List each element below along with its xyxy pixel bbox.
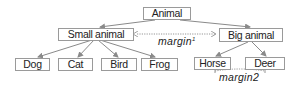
edge-animal-small (100, 20, 155, 27)
node-animal: Animal (143, 7, 191, 20)
edge-small-dog (38, 40, 92, 57)
margin1-label-sup: 1 (192, 36, 196, 42)
node-deer: Deer (245, 57, 285, 70)
node-horse: Horse (194, 57, 231, 70)
node-dog: Dog (15, 58, 50, 71)
node-cat: Cat (58, 58, 93, 71)
node-small-animal: Small animal (58, 28, 134, 41)
node-big-animal: Big animal (219, 28, 283, 42)
margin1-label: margin1 (158, 35, 196, 47)
margin2-label: margin2 (219, 71, 259, 83)
margin1-label-base: margin (158, 35, 192, 47)
edge-animal-big (180, 20, 250, 27)
node-bird: Bird (101, 58, 137, 71)
edge-big-horse (216, 42, 248, 56)
node-frog: Frog (141, 58, 178, 71)
edge-small-cat (78, 40, 94, 57)
edge-big-deer (252, 42, 266, 56)
